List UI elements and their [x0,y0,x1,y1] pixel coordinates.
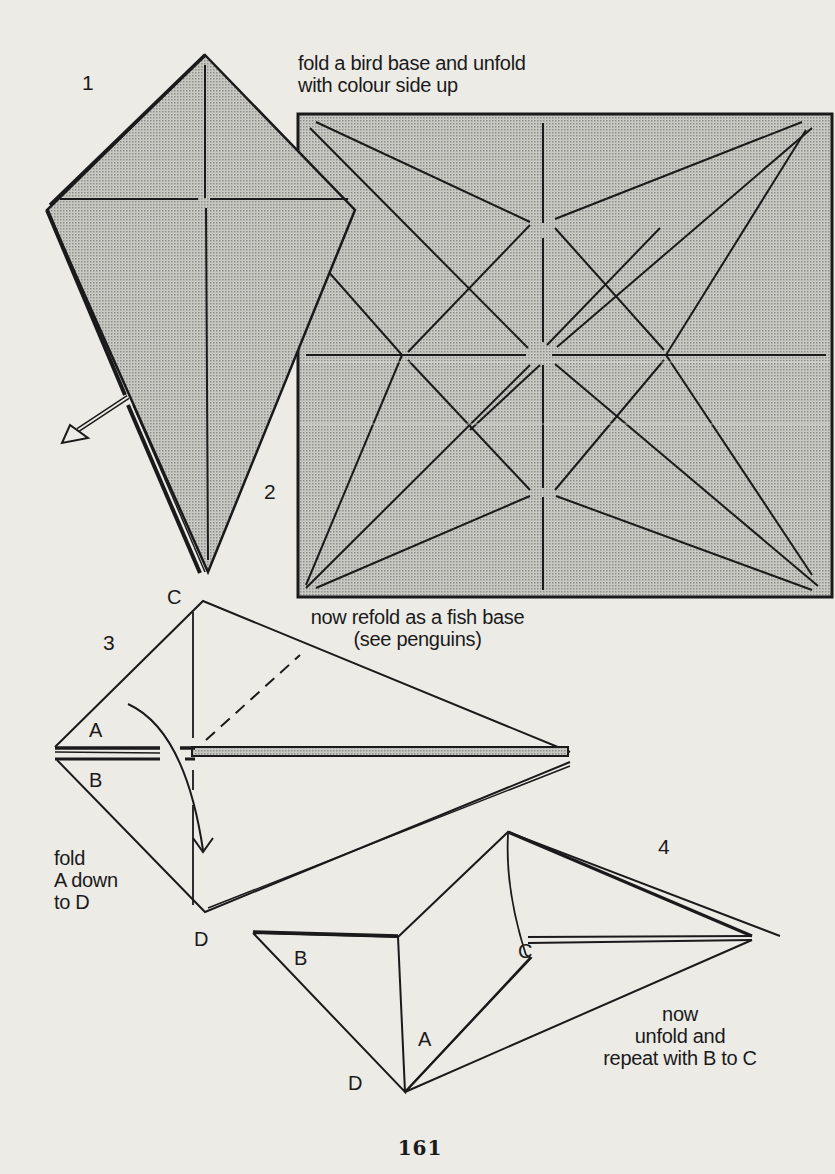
point-label-a: A [89,719,102,741]
step-number-2: 2 [264,481,276,503]
diagram-canvas [0,0,835,1174]
point-label-d: D [348,1072,362,1094]
caption-line: now [580,1003,780,1025]
caption-line: (see penguins) [290,628,545,650]
caption-line: fold a bird base and unfold [298,52,526,74]
caption-line: to D [54,891,118,913]
step-number-3: 3 [103,632,115,654]
point-label-c: C [518,940,532,962]
caption-line: with colour side up [298,74,526,96]
unfold-arrow-icon [62,397,128,443]
point-label-b: B [89,769,102,791]
caption-line: A down [54,869,118,891]
caption-line: repeat with B to C [580,1047,780,1069]
step-number-4: 4 [658,836,670,858]
point-label-c: C [167,586,181,608]
step1-caption: fold a bird base and unfold with colour … [298,52,526,96]
step3-caption: fold A down to D [54,847,118,913]
step2-caption: now refold as a fish base (see penguins) [290,606,545,650]
point-label-a: A [418,1028,431,1050]
caption-line: unfold and [580,1025,780,1047]
caption-line: fold [54,847,118,869]
caption-line: now refold as a fish base [290,606,545,628]
step-number-1: 1 [82,72,94,94]
point-label-b: B [294,947,307,969]
page-number: 161 [390,1136,450,1160]
point-label-d: D [194,928,208,950]
step4-caption: now unfold and repeat with B to C [580,1003,780,1069]
step2-crease-pattern [298,114,832,597]
